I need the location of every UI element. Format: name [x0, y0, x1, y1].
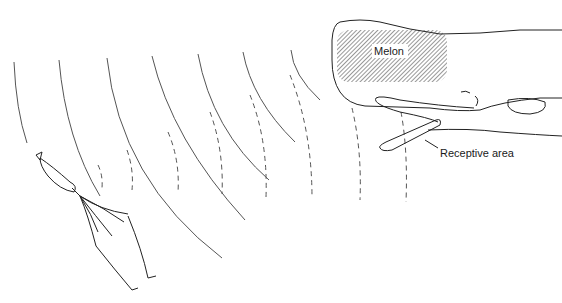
diagram-canvas: Melon Receptive area [0, 0, 562, 303]
returning-echo-waves [98, 75, 406, 202]
sperm-whale: Melon Receptive area [332, 20, 562, 159]
outgoing-sound-waves [14, 50, 320, 258]
squid [36, 152, 156, 290]
melon-label: Melon [374, 45, 404, 57]
receptive-area-label: Receptive area [440, 147, 515, 159]
